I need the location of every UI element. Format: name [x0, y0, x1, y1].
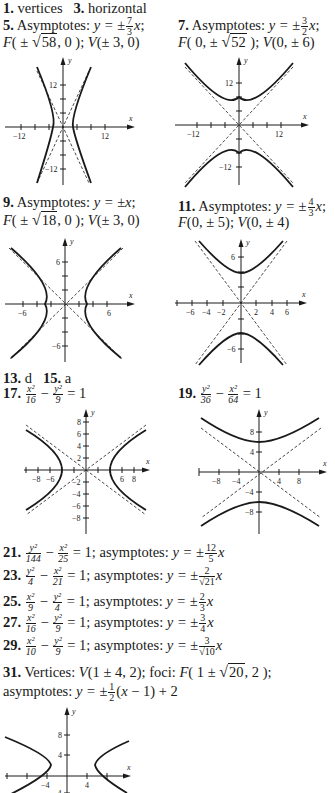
- answer-31: 31. Vertices: V(1 ± 4, 2); foci: F( 1 ± …: [3, 664, 272, 681]
- x-var: x: [316, 198, 322, 214]
- focus-root: 52: [230, 33, 247, 50]
- x-tick-label: 12: [275, 130, 283, 139]
- y-tick-label: 4: [58, 751, 62, 760]
- denominator: 144: [26, 554, 41, 564]
- x-tick-label: 6: [107, 309, 111, 318]
- y-equals: y =: [94, 194, 114, 210]
- y-equals: y =: [269, 17, 289, 33]
- x-axis-label: x: [128, 114, 133, 123]
- denominator: 4: [199, 624, 206, 634]
- x-tick-label: −12: [13, 132, 26, 141]
- fraction: y²36: [201, 384, 211, 405]
- denominator: 16: [26, 395, 36, 405]
- asymptotes-word: Asymptotes:: [17, 17, 90, 33]
- denominator: 36: [201, 395, 211, 405]
- pm-sign: ±: [117, 17, 125, 33]
- answer-23: 23. y²4 − x²21 = 1; asymptotes: y = ±2√2…: [3, 566, 222, 587]
- label-5: 5.: [3, 17, 14, 33]
- fraction: y²9: [53, 613, 62, 634]
- answer-5-line2: F( ± √58, 0 ); V(± 3, 0): [3, 34, 140, 51]
- x-tick-label: 8: [132, 475, 136, 484]
- denominator: 64: [228, 395, 238, 405]
- x-var: x: [207, 593, 213, 609]
- answer-17: 17. x²16 − y²9 = 1: [3, 384, 86, 405]
- denominator: 5: [205, 554, 217, 564]
- y-tick-label: 8: [250, 428, 254, 437]
- equation-rhs: = 1; asymptotes:: [67, 593, 163, 609]
- label-7: 7.: [178, 17, 189, 33]
- graph-9: −6 6 6 −6 x y: [5, 236, 135, 364]
- vertex: ± 3, 0: [102, 212, 135, 228]
- focus-root: 18: [41, 211, 58, 228]
- x-axis-label: x: [322, 459, 327, 468]
- y-equals: y =: [94, 17, 114, 33]
- label-1: 1.: [3, 0, 14, 16]
- y-tick-label: −6: [72, 502, 81, 511]
- y-tick-label: 12: [49, 81, 57, 90]
- y-equals: y =: [167, 614, 187, 630]
- answer-27: 27. x²16 − y²9 = 1; asymptotes: y = ±34x: [3, 613, 214, 634]
- x-tick-label: −4: [232, 477, 241, 486]
- pm-sign: ±: [292, 17, 300, 33]
- x-tick-label: 4: [270, 308, 274, 317]
- y-axis-label: y: [245, 238, 250, 247]
- fraction: x²21: [53, 566, 63, 587]
- vertex: ± 3, 0: [102, 34, 135, 50]
- x-tick-label: 6: [120, 475, 124, 484]
- fraction: 3√10: [199, 636, 215, 657]
- pm-sign: ±: [190, 614, 198, 630]
- graph-11: −6 −4 −2 2 4 6 6 −6 x y: [175, 237, 310, 367]
- answer-9: 9. Asymptotes: y = ±x;: [3, 195, 136, 210]
- pm-sign: ±: [99, 683, 107, 699]
- fraction: y²4: [53, 592, 62, 613]
- denominator: 4: [26, 577, 35, 587]
- x-tick-label: 6: [285, 308, 289, 317]
- asymptotes-word: Asymptotes:: [17, 194, 90, 210]
- denominator: 9: [53, 395, 62, 405]
- fraction: y²9: [53, 384, 62, 405]
- graph-7: −12 12 12 −12 x y: [175, 55, 310, 190]
- minus-sign: −: [40, 385, 48, 401]
- label-27: 27.: [3, 614, 21, 630]
- y-equals: y =: [167, 567, 187, 583]
- foci-word: foci:: [149, 664, 176, 680]
- x-tick-label: −6: [186, 308, 195, 317]
- fraction: 125: [205, 543, 217, 564]
- x-tick-label: 12: [101, 132, 109, 141]
- fraction: x²16: [26, 613, 36, 634]
- label-23: 23.: [3, 567, 21, 583]
- fraction: 34: [199, 613, 206, 634]
- y-tick-label: −12: [45, 165, 58, 174]
- y-tick-label: 4: [77, 442, 81, 451]
- denominator: 3: [308, 208, 315, 218]
- answer-11-line2: F(0, ± 5); V(0, ± 4): [178, 215, 289, 230]
- asymptotes-word: Asymptotes:: [198, 198, 271, 214]
- equation-rhs: = 1: [243, 385, 262, 401]
- y-equals: y =: [275, 198, 295, 214]
- label-17: 17.: [3, 385, 21, 401]
- equation-rhs: = 1: [67, 385, 86, 401]
- denominator: 21: [53, 577, 63, 587]
- graph-5: −12 12 12 −12 x y: [5, 55, 135, 185]
- vertex: 0, ± 6: [277, 34, 310, 50]
- label-31: 31.: [3, 664, 21, 680]
- x-var: x: [207, 614, 213, 630]
- fraction: y²9: [53, 636, 62, 657]
- pm-sign: ±: [190, 567, 198, 583]
- y-axis-label: y: [67, 56, 72, 65]
- y-tick-label: 2: [77, 454, 81, 463]
- answer-21: 21. y²144 − x²25 = 1; asymptotes: y = ±1…: [3, 543, 224, 564]
- x-var: x: [216, 567, 222, 583]
- label-3: 3.: [73, 0, 84, 16]
- y-equals: y =: [172, 544, 192, 560]
- x-axis-label: x: [128, 291, 133, 300]
- x-var: x: [218, 544, 224, 560]
- pm-sign: ±: [196, 544, 204, 560]
- fraction: 2√21: [199, 566, 215, 587]
- x-tick-label: −12: [187, 130, 200, 139]
- asymptotes-word: Asymptotes:: [192, 17, 265, 33]
- label-25: 25.: [3, 593, 21, 609]
- answer-31-line2: asymptotes: y = ±12(x − 1) + 2: [3, 682, 178, 703]
- y-tick-label: 4: [250, 448, 254, 457]
- y-tick-label: 6: [231, 253, 235, 262]
